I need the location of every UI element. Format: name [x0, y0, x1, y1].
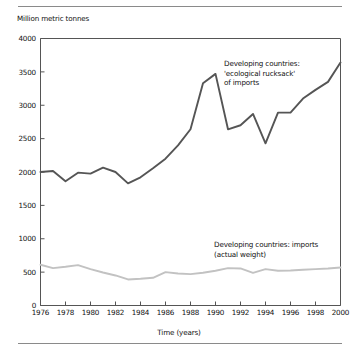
- x-tick-label: 1984: [128, 308, 154, 317]
- plot-area: [0, 0, 358, 355]
- x-tick-label: 1996: [278, 308, 304, 317]
- x-tick-label: 1980: [78, 308, 104, 317]
- y-tick-label: 500: [8, 268, 36, 277]
- y-tick-label: 1000: [8, 234, 36, 243]
- x-tick-label: 2000: [328, 308, 354, 317]
- y-tick-label: 3000: [8, 101, 36, 110]
- x-tick-label: 1988: [178, 308, 204, 317]
- y-tick-label: 3500: [8, 68, 36, 77]
- x-tick-label: 1986: [153, 308, 179, 317]
- y-tick-label: 4000: [8, 34, 36, 43]
- x-tick-label: 1978: [53, 308, 79, 317]
- annotation-actual-weight: Developing countries: imports (actual we…: [214, 240, 318, 259]
- chart-figure: Million metric tonnes Time (years) 05001…: [0, 0, 358, 355]
- x-tick-label: 1976: [28, 308, 54, 317]
- x-tick-label: 1982: [103, 308, 129, 317]
- y-tick-label: 2000: [8, 168, 36, 177]
- y-tick-label: 2500: [8, 134, 36, 143]
- annotation-ecological-rucksack: Developing countries: 'ecological rucksa…: [224, 59, 300, 88]
- x-tick-label: 1990: [203, 308, 229, 317]
- y-tick-label: 1500: [8, 201, 36, 210]
- x-tick-label: 1994: [253, 308, 279, 317]
- x-tick-label: 1998: [303, 308, 329, 317]
- x-tick-label: 1992: [228, 308, 254, 317]
